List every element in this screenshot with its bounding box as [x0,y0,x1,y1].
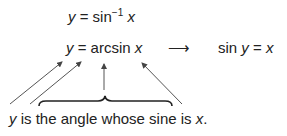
arrow-icon [10,62,62,104]
arrow-icon [142,63,182,104]
curly-brace-icon [39,96,172,106]
period: . [203,110,207,127]
var-y: y [9,110,17,127]
caption-text: is the angle whose sine is [17,110,196,127]
caption: y is the angle whose sine is x. [9,111,207,126]
arrow-icon [30,62,81,104]
